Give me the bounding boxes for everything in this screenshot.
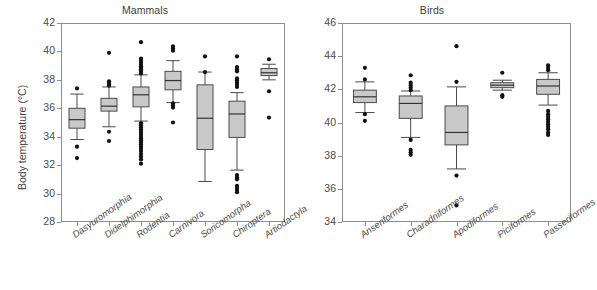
box-iqr [197, 85, 213, 150]
y-tick-label: 40 [31, 44, 55, 56]
outlier-point [139, 40, 143, 44]
y-tick-label: 44 [312, 49, 336, 61]
outlier-point [454, 173, 458, 177]
outlier-point [267, 89, 271, 93]
outlier-point [139, 162, 143, 166]
y-tick-mark [57, 194, 61, 195]
y-tick-label: 36 [31, 101, 55, 113]
y-tick-mark [57, 51, 61, 52]
outlier-point [107, 139, 111, 143]
outlier-point [203, 70, 207, 74]
y-tick-label: 42 [31, 16, 55, 28]
box-iqr [101, 98, 117, 111]
box-iqr [445, 106, 468, 145]
outlier-point [546, 68, 550, 72]
outlier-point [75, 156, 79, 160]
boxplot-chiroptera [229, 54, 245, 194]
panel-mammals: Mammals Body temperature (°C) 2830323436… [0, 0, 290, 290]
outlier-point [203, 54, 207, 58]
y-tick-mark [338, 189, 342, 190]
boxplot-piciformes [491, 71, 514, 99]
y-tick-mark [57, 80, 61, 81]
y-tick-mark [338, 156, 342, 157]
outlier-point [171, 49, 175, 53]
outlier-point [363, 66, 367, 70]
y-tick-mark [338, 56, 342, 57]
box-iqr [69, 108, 85, 128]
boxplot-dasyuromorphia [69, 86, 85, 160]
outlier-point [107, 83, 111, 87]
y-tick-label: 38 [31, 73, 55, 85]
y-tick-label: 30 [31, 187, 55, 199]
outlier-point [363, 119, 367, 123]
box-iqr [261, 68, 277, 75]
y-tick-mark [338, 89, 342, 90]
panel-birds: Birds 34363840424446AnseriformesCharadri… [290, 0, 574, 290]
outlier-point [107, 51, 111, 55]
outlier-point [107, 130, 111, 134]
y-tick-mark [338, 123, 342, 124]
box-iqr [229, 101, 245, 137]
box-iqr [133, 87, 149, 107]
outlier-point [235, 54, 239, 58]
y-tick-label: 34 [312, 215, 336, 227]
y-tick-label: 36 [312, 182, 336, 194]
boxplot-passeriformes [537, 63, 560, 137]
outlier-point [500, 71, 504, 75]
y-tick-label: 38 [312, 149, 336, 161]
y-tick-mark [57, 137, 61, 138]
outlier-point [75, 86, 79, 90]
outlier-point [235, 85, 239, 89]
boxplot-charadriiformes [399, 73, 422, 157]
y-tick-mark [57, 23, 61, 24]
boxplot-anseriformes [353, 66, 376, 123]
outlier-point [267, 57, 271, 61]
box-iqr [537, 79, 560, 94]
outlier-point [139, 71, 143, 75]
boxplot-layer-birds [290, 0, 574, 290]
outlier-point [363, 77, 367, 81]
boxplot-rodentia [133, 40, 149, 166]
y-tick-label: 32 [31, 158, 55, 170]
outlier-point [267, 115, 271, 119]
boxplot-soricomorpha [197, 54, 213, 181]
outlier-point [75, 145, 79, 149]
y-tick-label: 28 [31, 215, 55, 227]
outlier-point [235, 177, 239, 181]
y-tick-mark [338, 222, 342, 223]
boxplot-carnivora [165, 44, 181, 124]
outlier-point [500, 95, 504, 99]
y-tick-mark [57, 222, 61, 223]
box-iqr [399, 96, 422, 118]
outlier-point [235, 69, 239, 73]
outlier-point [139, 157, 143, 161]
outlier-point [454, 44, 458, 48]
outlier-point [409, 138, 413, 142]
y-tick-label: 42 [312, 82, 336, 94]
y-tick-mark [57, 165, 61, 166]
outlier-point [409, 73, 413, 77]
y-tick-label: 40 [312, 116, 336, 128]
outlier-point [454, 80, 458, 84]
y-tick-label: 34 [31, 130, 55, 142]
outlier-point [546, 133, 550, 137]
boxplot-artiodactyla [261, 57, 277, 119]
outlier-point [235, 190, 239, 194]
boxplot-didelphimorphia [101, 51, 117, 143]
outlier-point [171, 105, 175, 109]
outlier-point [363, 112, 367, 116]
outlier-point [171, 120, 175, 124]
boxplot-apodiformes [445, 44, 468, 207]
y-tick-label: 46 [312, 16, 336, 28]
y-tick-mark [57, 108, 61, 109]
y-tick-mark [338, 23, 342, 24]
outlier-point [409, 88, 413, 92]
outlier-point [409, 153, 413, 157]
